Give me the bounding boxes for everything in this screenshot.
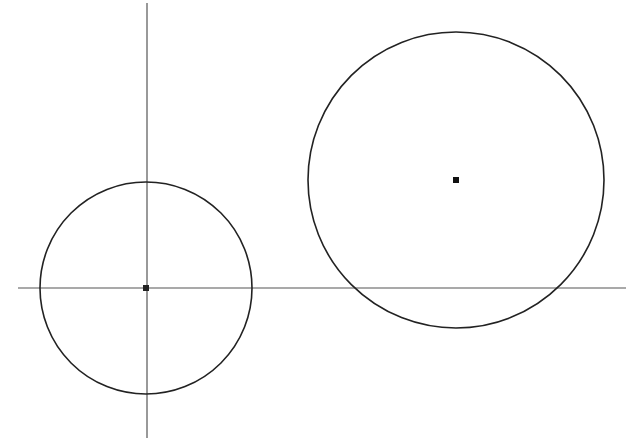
small-circle-center-point <box>143 285 149 291</box>
large-circle-center-point <box>453 177 459 183</box>
diagram-canvas <box>0 0 635 447</box>
